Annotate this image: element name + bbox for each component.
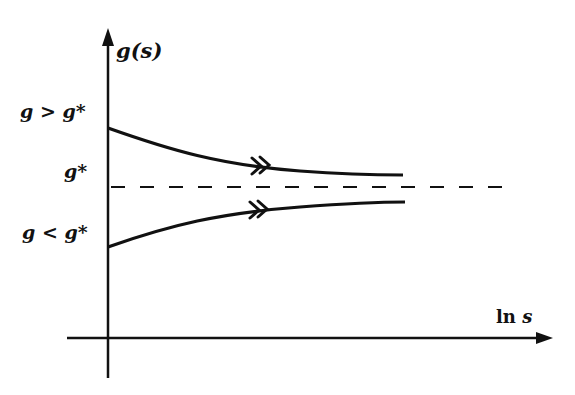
flow-diagram: g(s) g > g* g* g < g* ln s (0, 0, 575, 395)
upper-flow-curve (108, 128, 403, 175)
diagram-graphics (0, 0, 575, 395)
y-axis (102, 28, 114, 378)
label-above-fixed-point: g > g* (20, 100, 86, 122)
x-axis-label-var: s (522, 306, 532, 327)
label-below-fixed-point: g < g* (22, 221, 88, 243)
y-axis-label: g(s) (116, 38, 162, 63)
lower-double-arrow-icon (250, 201, 267, 218)
label-fixed-point: g* (64, 160, 87, 182)
y-axis-arrow-icon (102, 28, 114, 46)
x-axis-label-prefix: ln (496, 306, 522, 327)
x-axis-arrow-icon (536, 332, 553, 344)
x-axis-label: ln s (496, 306, 532, 327)
x-axis (67, 332, 553, 344)
